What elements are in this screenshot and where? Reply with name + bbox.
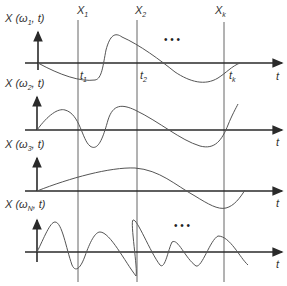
time-mark-t2: t2 [140, 69, 147, 83]
panel-omega-1: X (ω1, t) t1 t2 tk t • • • [4, 12, 282, 83]
panel-4-ylabel: X (ωN, t) [4, 198, 46, 212]
panel-4-curve [37, 220, 248, 276]
stochastic-process-diagram: X1 X2 Xk X (ω1, t) t1 t2 tk t • • • X (ω… [0, 0, 287, 286]
label-x2: X2 [134, 4, 146, 18]
panel-omega-3: X (ω3, t) t [4, 138, 282, 209]
panel-omega-n: X (ωN, t) t • • • [4, 198, 282, 276]
label-x1: X1 [76, 4, 88, 18]
panel-3-xlabel: t [276, 197, 280, 209]
panel-4-ellipsis: • • • [174, 220, 191, 231]
time-mark-t1: t1 [80, 69, 87, 83]
panel-1-curve [38, 35, 240, 82]
label-xk: Xk [214, 4, 226, 18]
panel-1-ellipsis: • • • [164, 34, 181, 45]
panel-2-curve [37, 104, 238, 147]
panel-1-xlabel: t [276, 70, 280, 82]
panel-3-ylabel: X (ω3, t) [4, 138, 45, 152]
panel-1-ylabel: X (ω1, t) [4, 12, 45, 26]
panel-2-xlabel: t [276, 136, 280, 148]
panel-omega-2: X (ω2, t) t [4, 77, 282, 148]
time-mark-tk: tk [229, 69, 236, 83]
panel-3-curve [37, 168, 245, 208]
panel-2-ylabel: X (ω2, t) [4, 77, 45, 91]
panel-4-xlabel: t [276, 258, 280, 270]
